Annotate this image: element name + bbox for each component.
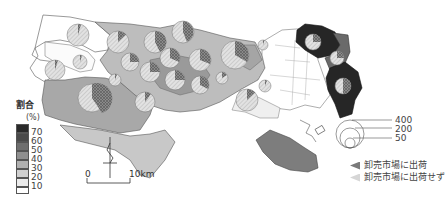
size-label-50: 50 (395, 133, 406, 143)
pie-legend-not-shipped-label: 卸売市場に出荷せず (364, 172, 445, 182)
legend-swatch-30 (16, 160, 29, 169)
scale-bar (87, 178, 130, 183)
scale-start-label: 0 (85, 170, 91, 179)
legend-swatch-20 (16, 169, 29, 178)
scale-end-label: 10km (129, 170, 154, 179)
legend-unit: (%) (26, 113, 40, 122)
pie-legend-not-shipped: 卸売市場に出荷せず (350, 170, 445, 183)
legend-swatch-60 (16, 133, 29, 142)
legend-swatch-0 (16, 187, 29, 194)
legend-swatch-10 (16, 178, 29, 187)
legend-label-10: 10 (31, 181, 42, 191)
size-legend-circles (336, 120, 392, 148)
legend-swatch-40 (16, 151, 29, 160)
legend-swatch-70 (16, 124, 29, 133)
legend-swatch-50 (16, 142, 29, 151)
region-south-gray (256, 130, 318, 172)
legend-title: 割合 (16, 98, 34, 111)
pie-wedge-dark-icon (350, 162, 360, 170)
pie-wedge-light-icon (350, 174, 360, 182)
pie-legend-shipped-label: 卸売市場に出荷 (364, 160, 427, 170)
